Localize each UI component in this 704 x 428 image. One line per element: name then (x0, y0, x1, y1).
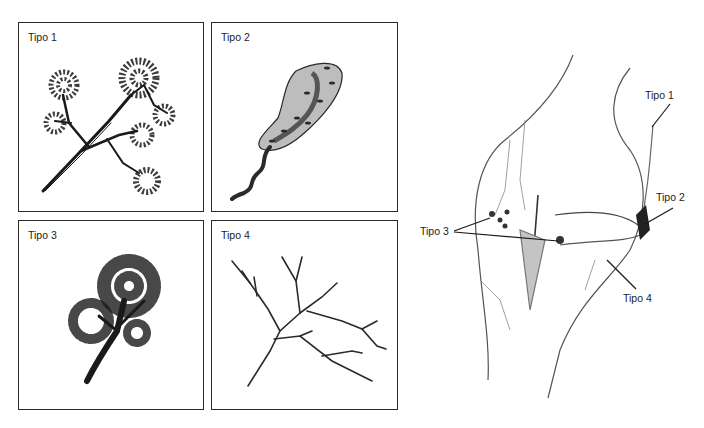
cluster (51, 72, 77, 98)
panel-tipo-1: Tipo 1 (18, 22, 204, 212)
leader-tipo-3b (454, 232, 558, 241)
leader-tipo-3a (454, 218, 490, 231)
callout-tipo-3: Tipo 3 (420, 225, 449, 237)
tipo-1-illustration (19, 23, 205, 213)
panel-tipo-3: Tipo 3 (18, 220, 204, 410)
panel-tipo-2: Tipo 2 (211, 22, 398, 212)
tipo-3-illustration (19, 221, 205, 411)
tipo-4-illustration (212, 221, 399, 411)
knee-joint-illustration (400, 0, 704, 428)
leader-tipo-1 (652, 104, 670, 127)
callout-tipo-1: Tipo 1 (645, 89, 674, 101)
panel-tipo-4: Tipo 4 (211, 220, 398, 410)
callout-tipo-4: Tipo 4 (623, 292, 652, 304)
femur-left-edge (475, 55, 573, 380)
leader-tipo-2 (645, 208, 673, 224)
tipo-2-illustration (212, 23, 399, 213)
femur-right-edge (548, 68, 643, 398)
callout-tipo-2: Tipo 2 (656, 191, 685, 203)
